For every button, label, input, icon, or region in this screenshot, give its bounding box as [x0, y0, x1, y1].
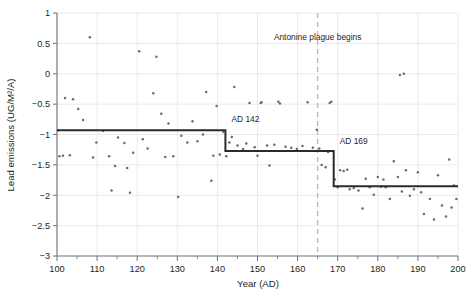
scatter-point [228, 141, 231, 144]
scatter-point [423, 213, 426, 216]
scatter-point [448, 158, 451, 161]
scatter-point [191, 120, 194, 123]
scatter-point [441, 204, 444, 207]
scatter-point [110, 189, 113, 192]
scatter-point [277, 100, 280, 103]
scatter-point [231, 136, 234, 139]
scatter-point [389, 198, 392, 201]
event-label: Antonine plague begins [274, 32, 362, 42]
scatter-point [348, 188, 351, 191]
scatter-point [256, 155, 259, 158]
scatter-point [69, 154, 72, 157]
scatter-point [142, 138, 145, 141]
x-tick-label: 130 [170, 264, 185, 274]
scatter-point [152, 92, 155, 95]
scatter-point [62, 155, 65, 158]
y-tick-label: −1.5 [32, 160, 50, 170]
scatter-point [205, 91, 208, 94]
annotations: AD 142AD 169Antonine plague begins [231, 32, 368, 146]
scatter-point [89, 36, 92, 39]
scatter-point [284, 145, 287, 148]
scatter-point [132, 151, 135, 154]
scatter-point [445, 215, 448, 218]
scatter-point [215, 105, 218, 108]
scatter-point [77, 108, 80, 111]
scatter-point [413, 188, 416, 191]
scatter-point [399, 74, 402, 77]
scatter-point [129, 192, 132, 195]
x-tick-label: 180 [370, 264, 385, 274]
scatter-point [196, 140, 199, 143]
x-tick-label: 200 [450, 264, 465, 274]
y-tick-label: −1 [40, 130, 50, 140]
scatter-point [160, 113, 163, 116]
scatter-point [266, 144, 269, 147]
y-tick-label: 0 [45, 69, 50, 79]
scatter-point [339, 169, 342, 172]
scatter-point [397, 176, 400, 179]
scatter-point [117, 136, 120, 139]
scatter-point [377, 176, 380, 179]
scatter-point [155, 55, 158, 58]
x-tick-label: 140 [210, 264, 225, 274]
scatter-point [318, 147, 321, 150]
scatter-point [433, 218, 436, 221]
x-tick-label: 110 [90, 264, 105, 274]
scatter-point [342, 170, 345, 173]
scatter-point [268, 164, 271, 167]
x-tick-label: 150 [250, 264, 265, 274]
scatter-point [437, 174, 440, 177]
scatter-point [108, 155, 111, 158]
x-tick-label: 120 [130, 264, 145, 274]
scatter-point [301, 145, 304, 148]
scatter-point [180, 134, 183, 137]
scatter-point [138, 50, 141, 53]
scatter-point [82, 119, 85, 122]
scatter-point [320, 164, 323, 167]
scatter-point [167, 122, 170, 125]
x-axis: 100110120130140150160170180190200 [49, 256, 465, 274]
scatter-point [95, 141, 98, 144]
scatter-point [365, 178, 368, 181]
scatter-point [146, 147, 149, 150]
scatter-point [290, 147, 293, 150]
scatter-point [357, 189, 360, 192]
scatter-point [164, 156, 167, 159]
scatter-point [420, 191, 423, 194]
scatter-point [306, 101, 309, 104]
scatter-point [417, 171, 420, 174]
scatter-point [64, 97, 67, 100]
scatter-point [233, 86, 236, 89]
y-axis-title: Lead emissions (UG/M²/A) [5, 78, 16, 191]
scatter-point [361, 207, 364, 210]
scatter-point [324, 166, 327, 169]
scatter-point [225, 155, 228, 158]
scatter-point [401, 190, 404, 193]
scatter-point [346, 168, 349, 171]
scatter-point [126, 167, 129, 170]
scatter-point [403, 73, 406, 76]
x-tick-label: 170 [330, 264, 345, 274]
scatter-point [450, 206, 453, 209]
scatter-point [114, 165, 117, 168]
y-axis: 10.50−0.5−1−1.5−2−2.5−3 [32, 8, 57, 261]
step-label-169: AD 169 [340, 136, 368, 146]
scatter-point [58, 155, 61, 158]
lead-emissions-chart: 10.50−0.5−1−1.5−2−2.5−3 1001101201301401… [0, 0, 474, 301]
scatter-point [382, 178, 385, 181]
scatter-point [273, 144, 276, 147]
scatter-point [92, 156, 95, 159]
x-axis-title: Year (AD) [237, 278, 279, 289]
grid-lines [57, 13, 458, 256]
scatter-point [330, 100, 333, 103]
scatter-point [123, 142, 126, 145]
step-label-142: AD 142 [231, 114, 259, 124]
scatter-point [212, 155, 215, 158]
y-tick-label: 0.5 [37, 39, 50, 49]
scatter-point [405, 169, 408, 172]
scatter-point [373, 193, 376, 196]
x-tick-group: 100110120130140150160170180190200 [49, 256, 465, 274]
y-tick-label: −3 [40, 251, 50, 261]
scatter-point [259, 102, 262, 105]
y-tick-label: −2 [40, 191, 50, 201]
